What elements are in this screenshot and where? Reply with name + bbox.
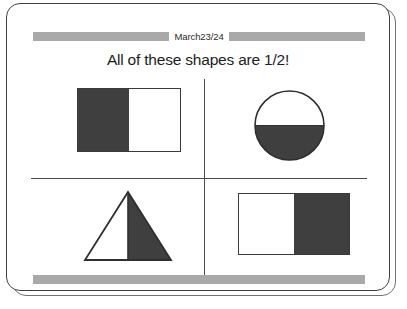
rectangle-shaded-half	[78, 89, 129, 151]
rectangle-left-half-shaded	[77, 88, 181, 152]
rectangle-unshaded-half	[129, 89, 180, 151]
triangle-right-half-shaded	[83, 190, 173, 262]
footer-rule	[33, 275, 365, 284]
shapes-layer	[7, 4, 389, 290]
slide-frame: March23/24 All of these shapes are 1/2!	[6, 3, 390, 291]
circle-bottom-half-shaded	[254, 90, 325, 161]
rectangle2-unshaded-half	[239, 194, 294, 254]
rectangle2-shaded-half	[294, 194, 349, 254]
rectangle-right-half-shaded	[238, 193, 350, 255]
